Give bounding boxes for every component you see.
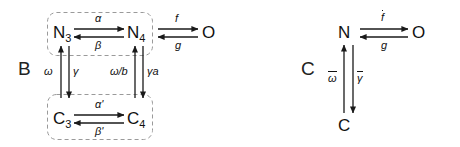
rate-label-omega-bar: ω	[328, 73, 337, 84]
rate-label-gamma: γ	[73, 66, 79, 77]
rate-label-g: g	[175, 40, 181, 51]
node-N4-base: N	[127, 23, 139, 42]
node-C4: C4	[127, 110, 145, 130]
node-N3-base: N	[53, 23, 65, 42]
rate-label-beta-prime: β'	[95, 126, 103, 137]
node-O-B: O	[202, 24, 215, 41]
rate-label-omega-over-b: ω/b	[110, 66, 128, 77]
rate-label-omega-bar-text: ω	[328, 73, 337, 84]
rate-label-f: f	[175, 13, 178, 24]
node-O-C-base: O	[412, 23, 425, 42]
panel-letter-B: B	[18, 59, 31, 78]
node-C3: C3	[53, 110, 71, 130]
rate-label-omega: ω	[44, 66, 53, 77]
rate-label-alpha-prime: α'	[95, 99, 103, 110]
node-N3: N3	[53, 24, 71, 44]
rate-label-f-bar-text: f	[381, 12, 384, 23]
node-N-base: N	[338, 23, 350, 42]
node-N: N	[338, 24, 350, 41]
rate-label-beta: β	[95, 40, 101, 51]
node-C: C	[338, 117, 350, 134]
node-C-base: C	[338, 116, 350, 135]
rate-label-gamma-bar: γ	[357, 73, 363, 84]
rate-label-alpha: α	[95, 13, 101, 24]
node-C4-sub: 4	[139, 118, 145, 130]
rate-label-g-C: g	[381, 40, 387, 51]
panel-letter-C: C	[301, 59, 315, 78]
node-N3-sub: 3	[65, 32, 71, 44]
node-C4-base: C	[127, 109, 139, 128]
node-N4-sub: 4	[139, 32, 145, 44]
node-C3-sub: 3	[65, 118, 71, 130]
node-C3-base: C	[53, 109, 65, 128]
figure-canvas: B N3 N4 O C3 C4 α β f g ω γ ω/b γa α' β'…	[0, 0, 460, 147]
node-N4: N4	[127, 24, 145, 44]
node-O-C: O	[412, 24, 425, 41]
rate-label-gamma-bar-text: γ	[357, 73, 363, 84]
rate-label-f-bar: f	[381, 12, 384, 23]
node-O-B-base: O	[202, 23, 215, 42]
rate-label-gamma-a: γa	[147, 66, 159, 77]
